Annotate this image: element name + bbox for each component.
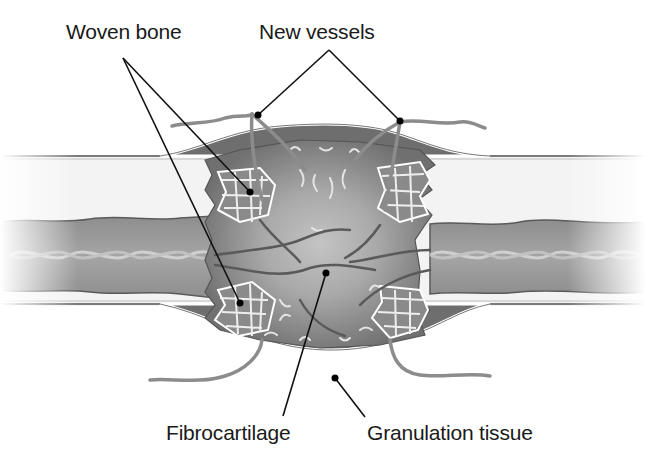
pointer-dot <box>332 375 339 382</box>
edge-fade <box>0 140 645 320</box>
pointer-dot <box>247 189 254 196</box>
pointer-dot <box>255 112 262 119</box>
pointer-dot <box>397 118 404 125</box>
label-granulation-tissue: Granulation tissue <box>367 421 533 445</box>
leader-new-vessels-right <box>329 50 400 121</box>
leader-granulation-tissue <box>335 378 365 417</box>
label-fibrocartilage: Fibrocartilage <box>166 421 290 445</box>
label-woven-bone: Woven bone <box>66 20 182 44</box>
label-new-vessels: New vessels <box>259 20 375 44</box>
diagram-canvas <box>0 0 645 466</box>
fracture-healing-diagram: Woven bone New vessels Fibrocartilage Gr… <box>0 0 645 466</box>
leader-new-vessels-left <box>258 50 329 115</box>
pointer-dot <box>323 270 330 277</box>
pointer-dot <box>237 300 244 307</box>
